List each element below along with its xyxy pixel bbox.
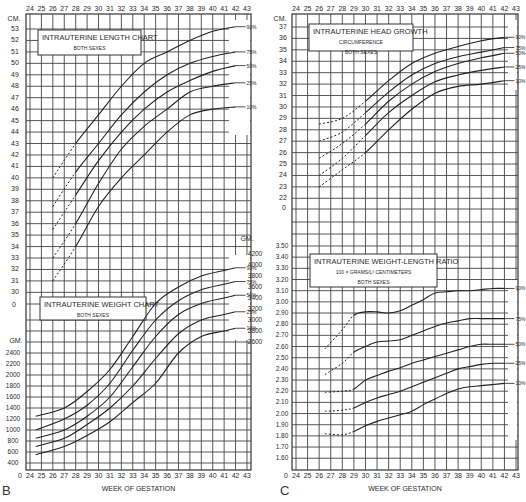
head-y-tick: 32 xyxy=(279,80,287,87)
ratio-y-tick: 2.10 xyxy=(276,398,289,405)
length-y-tick: 35 xyxy=(11,231,19,238)
week-tick-top: 42 xyxy=(232,5,240,12)
head-y-tick: 26 xyxy=(279,149,287,156)
week-tick-top: 26 xyxy=(49,5,57,12)
week-tick-bottom: 43 xyxy=(243,472,251,479)
head-y-tick: 28 xyxy=(279,126,287,133)
week-tick-bottom: 27 xyxy=(327,472,335,479)
ratio-y-tick: 3.00 xyxy=(276,298,289,305)
week-tick-bottom: 37 xyxy=(175,472,183,479)
percentile-label: 10% xyxy=(515,380,526,386)
week-tick-bottom: 30 xyxy=(362,472,370,479)
week-tick-top: 35 xyxy=(419,5,427,12)
week-tick-bottom: 42 xyxy=(232,472,240,479)
head-y-tick: 27 xyxy=(279,137,287,144)
week-tick-top: 38 xyxy=(186,5,194,12)
weight-y-tick-left: 400 xyxy=(8,459,19,466)
head-y-tick: 34 xyxy=(279,57,287,64)
percentile-label: 75% xyxy=(247,279,258,285)
ratio-y-tick: 2.20 xyxy=(276,387,289,394)
panel-label-b: B xyxy=(2,483,11,498)
percentile-label: 25% xyxy=(247,309,258,315)
week-tick-top: 34 xyxy=(140,5,148,12)
head-y-tick: 29 xyxy=(279,114,287,121)
ratio-title-box-text: BOTH SEXES xyxy=(358,279,391,285)
origin-zero: 0 xyxy=(284,472,288,479)
weight-y-unit: GM. xyxy=(9,337,22,344)
percentile-label: 50% xyxy=(247,63,258,69)
week-tick-bottom: 38 xyxy=(186,472,194,479)
ratio-curve-dashed xyxy=(325,352,354,374)
week-tick-bottom: 38 xyxy=(454,472,462,479)
week-tick-bottom: 39 xyxy=(197,472,205,479)
length-y-tick: 49 xyxy=(11,71,19,78)
length-y-tick: 36 xyxy=(11,220,19,227)
week-tick-bottom: 40 xyxy=(477,472,485,479)
head-y-tick: 25 xyxy=(279,160,287,167)
percentile-label: 25% xyxy=(247,80,258,86)
week-tick-bottom: 36 xyxy=(431,472,439,479)
ratio-y-tick: 3.50 xyxy=(276,242,289,249)
length-y-tick: 39 xyxy=(11,185,19,192)
week-tick-bottom: 32 xyxy=(385,472,393,479)
week-tick-bottom: 29 xyxy=(350,472,358,479)
week-tick-bottom: 43 xyxy=(512,472,520,479)
weight-y-tick-right: 4200 xyxy=(248,250,263,257)
origin-zero: 0 xyxy=(18,472,22,479)
length-y-tick: 51 xyxy=(11,48,19,55)
x-axis-label: WEEK OF GESTATION xyxy=(368,485,442,492)
week-tick-top: 33 xyxy=(129,5,137,12)
ratio-curve xyxy=(354,344,505,389)
weight-y-tick-left: 1000 xyxy=(6,426,21,433)
week-tick-top: 30 xyxy=(362,5,370,12)
head-y-tick: 33 xyxy=(279,69,287,76)
week-tick-top: 43 xyxy=(512,5,520,12)
percentile-label: 90% xyxy=(247,24,258,30)
week-tick-bottom: 24 xyxy=(292,472,300,479)
percentile-label: 90% xyxy=(515,285,526,291)
head-y-tick: 23 xyxy=(279,183,287,190)
percentile-label: 75% xyxy=(515,316,526,322)
ratio-y-tick: 3.40 xyxy=(276,253,289,260)
head-y-tick: 36 xyxy=(279,34,287,41)
weight-y-tick-left: 2400 xyxy=(6,349,21,356)
head-y-tick: 24 xyxy=(279,171,287,178)
ratio-y-tick: 2.90 xyxy=(276,309,289,316)
week-tick-top: 24 xyxy=(292,5,300,12)
week-tick-top: 26 xyxy=(315,5,323,12)
week-tick-bottom: 30 xyxy=(95,472,103,479)
percentile-label: 50% xyxy=(515,50,526,56)
week-tick-bottom: 41 xyxy=(489,472,497,479)
percentile-label: 90% xyxy=(515,34,526,40)
week-tick-bottom: 28 xyxy=(338,472,346,479)
week-tick-top: 27 xyxy=(327,5,335,12)
week-tick-top: 40 xyxy=(477,5,485,12)
week-tick-bottom: 25 xyxy=(304,472,312,479)
length-y-break: 0 xyxy=(12,301,16,308)
week-tick-top: 36 xyxy=(163,5,171,12)
length-y-tick: 52 xyxy=(11,36,19,43)
length-y-tick: 33 xyxy=(11,254,19,261)
ratio-y-tick: 3.10 xyxy=(276,287,289,294)
percentile-label: 50% xyxy=(247,292,258,298)
weight-y-tick-left: 2200 xyxy=(6,360,21,367)
ratio-y-tick: 2.70 xyxy=(276,331,289,338)
panel-b: 2424252526262727282829293030313132323333… xyxy=(6,5,263,492)
ratio-y-tick: 2.50 xyxy=(276,354,289,361)
length-y-tick: 38 xyxy=(11,197,19,204)
head-y-tick: 30 xyxy=(279,103,287,110)
head-y-unit: CM. xyxy=(274,15,287,22)
week-tick-top: 36 xyxy=(431,5,439,12)
weight-y-tick-right: 3000 xyxy=(248,316,263,323)
ratio-y-tick: 1.90 xyxy=(276,421,289,428)
week-tick-bottom: 27 xyxy=(60,472,68,479)
length-title-box-text: BOTH SEXES xyxy=(74,45,107,51)
percentile-label: 10% xyxy=(247,325,258,331)
weight-curve xyxy=(36,328,236,455)
ratio-y-tick: 3.20 xyxy=(276,276,289,283)
head-y-tick: 37 xyxy=(279,23,287,30)
growth-charts-figure: 2424252526262727282829293030313132323333… xyxy=(0,0,526,502)
head-y-tick: 22 xyxy=(279,194,287,201)
head-y-tick: 35 xyxy=(279,46,287,53)
weight-y-tick-left: 1600 xyxy=(6,393,21,400)
